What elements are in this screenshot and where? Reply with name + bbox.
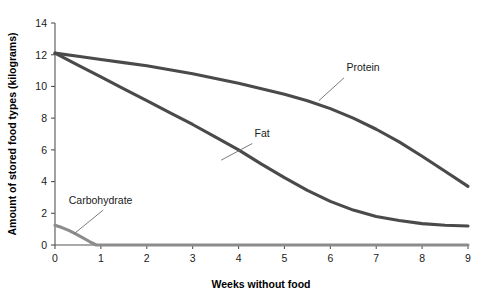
x-axis-tick-label: 2 (144, 252, 150, 264)
y-axis-title: Amount of stored food types (kilograms) (6, 32, 18, 235)
y-axis-tick-label: 14 (35, 17, 47, 29)
y-axis-tick-label: 10 (35, 80, 47, 92)
line-chart: 024681012140123456789Weeks without foodA… (0, 0, 488, 297)
chart-container: 024681012140123456789Weeks without foodA… (0, 0, 488, 297)
y-axis-tick-label: 6 (41, 144, 47, 156)
y-axis-tick-label: 2 (41, 207, 47, 219)
series-label-protein: Protein (346, 61, 379, 73)
series-line-carbohydrate (55, 225, 468, 245)
fat-leader (221, 144, 252, 161)
y-axis-tick-label: 4 (41, 175, 47, 187)
x-axis-tick-label: 4 (236, 252, 242, 264)
series-line-protein (55, 53, 468, 186)
y-axis-tick-label: 12 (35, 49, 47, 61)
series-label-fat: Fat (255, 127, 270, 139)
x-axis-tick-label: 3 (190, 252, 196, 264)
x-axis-tick-label: 1 (98, 252, 104, 264)
y-axis-tick-label: 8 (41, 112, 47, 124)
x-axis-tick-label: 7 (373, 252, 379, 264)
x-axis-tick-label: 5 (282, 252, 288, 264)
y-axis-tick-label: 0 (41, 239, 47, 251)
x-axis-tick-label: 6 (327, 252, 333, 264)
x-axis-title: Weeks without food (212, 278, 311, 290)
x-axis-tick-label: 9 (465, 252, 471, 264)
x-axis-tick-label: 8 (419, 252, 425, 264)
series-label-carbohydrate: Carbohydrate (69, 194, 133, 206)
carbohydrate-leader (74, 210, 103, 233)
protein-leader (319, 78, 344, 101)
x-axis-tick-label: 0 (52, 252, 58, 264)
